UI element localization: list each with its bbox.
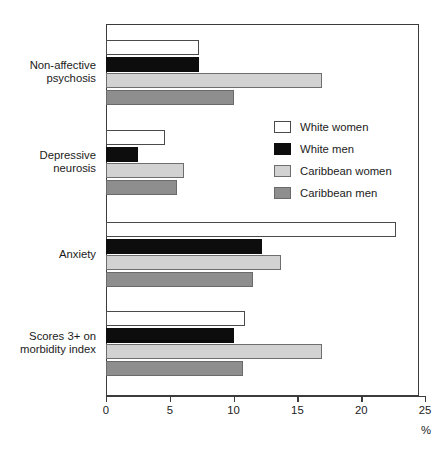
- category-label: Anxiety: [59, 248, 96, 261]
- legend-item: White men: [274, 139, 392, 159]
- bar: [106, 272, 253, 287]
- bar: [106, 130, 165, 145]
- x-axis-tick-label: 20: [355, 404, 368, 416]
- legend-label: Caribbean men: [300, 187, 377, 199]
- bar-chart: Non-affective psychosisDepressive neuros…: [0, 0, 448, 460]
- bar: [106, 147, 138, 162]
- x-axis-tick-label: 25: [419, 404, 432, 416]
- x-axis-tick-label: 15: [291, 404, 304, 416]
- bar: [106, 344, 322, 359]
- x-axis-tick: [425, 396, 426, 402]
- x-axis-tick-label: 10: [227, 404, 240, 416]
- x-axis-tick: [297, 396, 298, 402]
- bar: [106, 163, 184, 178]
- bar: [106, 57, 199, 72]
- x-axis-line: [106, 396, 426, 397]
- bar: [106, 90, 234, 105]
- category-label: Depressive neurosis: [39, 149, 96, 176]
- bar: [106, 328, 234, 343]
- bar: [106, 255, 281, 270]
- legend-swatch-icon: [274, 165, 291, 177]
- bar: [106, 239, 262, 254]
- legend-swatch-icon: [274, 121, 291, 133]
- category-label: Scores 3+ on morbidity index: [20, 330, 96, 357]
- legend-item: Caribbean women: [274, 161, 392, 181]
- x-axis-unit-label: %: [421, 424, 431, 436]
- category-label: Non-affective psychosis: [30, 59, 96, 86]
- legend-swatch-icon: [274, 187, 291, 199]
- legend-label: Caribbean women: [300, 165, 392, 177]
- bar: [106, 73, 322, 88]
- x-axis-tick-label: 0: [103, 404, 109, 416]
- legend-item: Caribbean men: [274, 183, 392, 203]
- x-axis-tick-label: 5: [167, 404, 173, 416]
- bar: [106, 180, 177, 195]
- x-axis-tick: [234, 396, 235, 402]
- bar: [106, 311, 245, 326]
- x-axis-tick: [106, 396, 107, 402]
- bar: [106, 40, 199, 55]
- legend-label: White women: [300, 121, 368, 133]
- x-axis-tick: [361, 396, 362, 402]
- x-axis-tick: [170, 396, 171, 402]
- bar: [106, 222, 396, 237]
- legend-item: White women: [274, 117, 392, 137]
- legend-label: White men: [300, 143, 354, 155]
- legend: White womenWhite menCaribbean womenCarib…: [274, 117, 392, 205]
- bar: [106, 361, 243, 376]
- legend-swatch-icon: [274, 143, 291, 155]
